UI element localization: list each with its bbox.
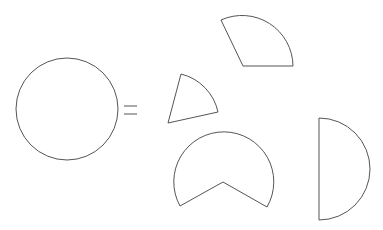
small-sector	[168, 74, 218, 123]
diagram-svg	[0, 0, 383, 230]
whole-circle	[16, 58, 118, 160]
pacman-sector	[174, 132, 274, 207]
quarter-sector-top	[221, 15, 293, 66]
equals-sign	[124, 106, 137, 114]
semicircle	[319, 118, 370, 220]
diagram-canvas	[0, 0, 383, 230]
